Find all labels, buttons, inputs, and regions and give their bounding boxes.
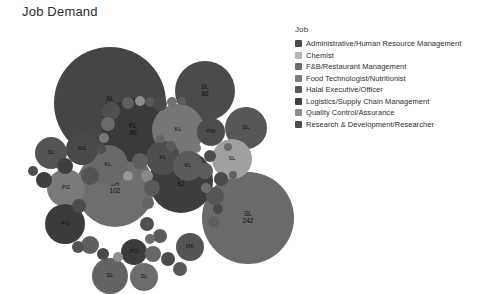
legend-item-label: Logistics/Supply Chain Management: [306, 97, 429, 106]
bubble-small[interactable]: [81, 167, 99, 185]
bubble-small[interactable]: [186, 98, 194, 106]
bubble-small[interactable]: [72, 241, 84, 253]
bubble-label: SL: [243, 125, 250, 131]
bubble-small[interactable]: [144, 180, 160, 196]
bubble-sl[interactable]: SL: [130, 263, 158, 291]
legend-item[interactable]: F&B/Restaurant Management: [295, 61, 495, 73]
legend: Job Administrative/Human Resource Manage…: [295, 25, 495, 130]
legend-heading: Job: [295, 25, 495, 34]
bubble-small[interactable]: [135, 96, 145, 106]
legend-item-label: Research & Development/Researcher: [306, 120, 434, 129]
bubble-small[interactable]: [153, 97, 167, 111]
bubble-small[interactable]: [145, 246, 161, 262]
legend-item-label: Administrative/Human Resource Management: [306, 39, 461, 48]
bubble-small[interactable]: [208, 216, 220, 228]
bubble-sl[interactable]: SL: [92, 258, 128, 294]
bubble-small[interactable]: [113, 252, 123, 262]
bubble-small[interactable]: [204, 150, 216, 162]
bubble-label: SL: [229, 156, 236, 162]
legend-swatch-icon: [295, 98, 302, 105]
bubble-value: 82: [177, 181, 184, 188]
legend-item[interactable]: Research & Development/Researcher: [295, 119, 495, 131]
bubble-small[interactable]: [153, 229, 167, 243]
bubble-label: KL: [185, 163, 192, 169]
bubble-small[interactable]: [101, 117, 115, 131]
legend-item-label: F&B/Restaurant Management: [306, 62, 406, 71]
legend-swatch-icon: [295, 109, 302, 116]
legend-swatch-icon: [295, 86, 302, 93]
bubble-small[interactable]: [178, 97, 186, 105]
bubble-label: PW: [206, 129, 215, 135]
bubble-small[interactable]: [173, 262, 187, 276]
bubble-label: MK: [186, 244, 194, 250]
bubble-value: 242: [242, 218, 253, 225]
bubble-label: KL: [160, 155, 167, 161]
bubble-pg[interactable]: PG: [121, 239, 147, 265]
bubble-small[interactable]: [36, 172, 52, 188]
bubble-small[interactable]: [229, 171, 237, 179]
bubble-small[interactable]: [57, 158, 73, 174]
legend-item[interactable]: Administrative/Human Resource Management: [295, 38, 495, 50]
bubble-small[interactable]: [140, 217, 154, 231]
bubble-small[interactable]: [156, 135, 164, 143]
bubble-value: 86: [201, 91, 208, 98]
bubble-small[interactable]: [214, 172, 228, 186]
legend-swatch-icon: [295, 75, 302, 82]
bubble-small[interactable]: [72, 199, 86, 213]
bubble-small[interactable]: [213, 204, 223, 214]
bubble-small[interactable]: [99, 133, 109, 143]
bubble-mk[interactable]: MK: [176, 233, 204, 261]
bubble-small[interactable]: [167, 97, 177, 107]
bubble-small[interactable]: [123, 171, 133, 181]
bubble-label: PG: [130, 249, 138, 255]
bubble-label: SL: [48, 150, 55, 156]
bubble-small[interactable]: [161, 252, 175, 266]
bubble-small[interactable]: [224, 143, 232, 151]
bubble-small[interactable]: [142, 197, 154, 209]
bubble-label: KL: [175, 127, 182, 133]
bubble-label: PG: [61, 221, 69, 227]
bubble-small[interactable]: [191, 143, 201, 153]
legend-item[interactable]: Logistics/Supply Chain Management: [295, 96, 495, 108]
bubble-small[interactable]: [96, 144, 106, 154]
legend-item-label: Chemist: [306, 51, 334, 60]
bubble-label: SL: [107, 273, 114, 279]
bubble-label: PG: [62, 185, 70, 191]
legend-swatch-icon: [295, 121, 302, 128]
bubble-value: 86: [129, 130, 136, 137]
bubble-label: KL: [105, 162, 112, 168]
legend-item-label: Halal Executive/Officer: [306, 85, 383, 94]
legend-swatch-icon: [295, 63, 302, 70]
legend-swatch-icon: [295, 40, 302, 47]
bubble-small[interactable]: [197, 163, 213, 179]
bubble-value: 102: [109, 188, 120, 195]
legend-item[interactable]: Food Technologist/Nutritionist: [295, 73, 495, 85]
legend-item[interactable]: Halal Executive/Officer: [295, 84, 495, 96]
legend-swatch-icon: [295, 52, 302, 59]
legend-item-label: Quality Control/Assurance: [306, 108, 394, 117]
bubble-small[interactable]: [132, 153, 148, 169]
bubble-plot-area[interactable]: SL173SL242JH102SL86KL86JH82KLSLPWSLPGPGK…: [0, 28, 292, 271]
legend-item-list: Administrative/Human Resource Management…: [295, 38, 495, 130]
legend-item[interactable]: Chemist: [295, 50, 495, 62]
bubble-small[interactable]: [166, 141, 176, 151]
legend-item-label: Food Technologist/Nutritionist: [306, 74, 406, 83]
bubble-small[interactable]: [122, 97, 134, 109]
bubble-label: NS: [78, 146, 86, 152]
legend-item[interactable]: Quality Control/Assurance: [295, 107, 495, 119]
bubble-small[interactable]: [145, 234, 155, 244]
page-title: Job Demand: [22, 4, 98, 19]
bubble-label: SL: [141, 274, 148, 280]
bubble-small[interactable]: [97, 248, 109, 260]
bubble-small[interactable]: [201, 183, 211, 193]
